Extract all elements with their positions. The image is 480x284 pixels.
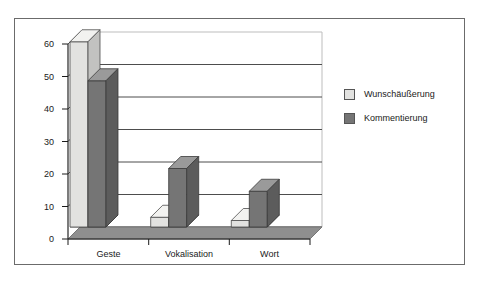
y-tick-label-50: 50 — [32, 72, 54, 82]
x-tick-label-geste: Geste — [78, 249, 139, 259]
x-tick-label-vokalisation: Vokalisation — [153, 249, 225, 259]
chart-figure: 60 50 40 30 20 10 0 Geste Vokalisation W… — [0, 0, 480, 284]
y-axis — [62, 44, 68, 239]
legend-label-kommentierung: Kommentierung — [364, 113, 428, 123]
bar-vokalisation-kommentierung — [169, 157, 199, 228]
plot-area — [0, 0, 480, 284]
legend-item-wunschaeusserung: Wunschäußerung — [344, 84, 462, 104]
floor-plane — [68, 227, 322, 239]
y-tick-label-30: 30 — [32, 137, 54, 147]
y-tick-label-10: 10 — [32, 202, 54, 212]
x-tick-label-wort: Wort — [239, 249, 300, 259]
chart-legend: Wunschäußerung Kommentierung — [344, 84, 462, 132]
bar-wort-kommentierung — [249, 179, 279, 227]
chart-svg — [0, 0, 480, 284]
legend-swatch-wunschaeusserung — [344, 89, 355, 100]
y-tick-label-40: 40 — [32, 104, 54, 114]
legend-label-wunschaeusserung: Wunschäußerung — [364, 89, 435, 99]
x-axis — [68, 239, 310, 245]
legend-item-kommentierung: Kommentierung — [344, 108, 462, 128]
y-tick-label-60: 60 — [32, 39, 54, 49]
legend-swatch-kommentierung — [344, 113, 355, 124]
y-tick-label-0: 0 — [32, 234, 54, 244]
y-tick-label-20: 20 — [32, 169, 54, 179]
bar-geste-kommentierung — [88, 69, 118, 227]
